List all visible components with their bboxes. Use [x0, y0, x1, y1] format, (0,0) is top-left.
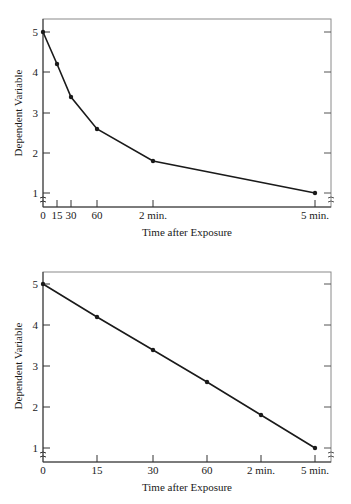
x-tick-label: 5 min.	[301, 464, 329, 476]
y-tick-label: 5	[33, 26, 39, 38]
chart-ordinal-time-svg: 5 4 3 2 1 0 15 30 60 2 min. 5 min. Time …	[0, 252, 351, 504]
x-tick-label: 0	[40, 209, 46, 221]
chart-ordinal-time: 5 4 3 2 1 0 15 30 60 2 min. 5 min. Time …	[0, 252, 351, 504]
x-tick-label: 15	[52, 209, 64, 221]
x-tick-label: 60	[92, 209, 104, 221]
data-points	[41, 30, 317, 195]
y-axis-title: Dependent Variable	[12, 69, 24, 156]
x-tick-label: 2 min.	[139, 209, 167, 221]
plot-frame	[43, 272, 331, 462]
plot-frame	[43, 19, 331, 207]
x-ticks	[57, 200, 315, 207]
x-axis-title: Time after Exposure	[142, 226, 232, 238]
data-line	[43, 284, 315, 448]
y-ticks-left	[43, 284, 50, 448]
x-tick-label: 2 min.	[247, 464, 275, 476]
x-tick-label: 0	[40, 464, 46, 476]
y-tick-label: 2	[33, 401, 39, 413]
y-tick-label: 4	[33, 319, 39, 331]
x-tick-label: 60	[202, 464, 214, 476]
x-tick-label: 30	[66, 209, 78, 221]
y-tick-label: 1	[33, 442, 39, 454]
x-ticks	[97, 455, 315, 462]
y-tick-label: 4	[33, 66, 39, 78]
y-ticks-left	[43, 32, 50, 193]
data-line	[43, 32, 315, 193]
y-tick-label: 2	[33, 147, 39, 159]
y-tick-label: 5	[33, 278, 39, 290]
x-tick-label: 15	[92, 464, 104, 476]
x-tick-label: 5 min.	[301, 209, 329, 221]
y-tick-label: 3	[33, 107, 39, 119]
x-axis-title: Time after Exposure	[142, 481, 232, 493]
y-ticks-right	[324, 32, 331, 193]
y-tick-label: 3	[33, 360, 39, 372]
y-axis-title: Dependent Variable	[12, 322, 24, 409]
y-ticks-right	[324, 284, 331, 448]
y-tick-label: 1	[33, 187, 39, 199]
chart-linear-time-svg: 5 4 3 2 1 0 15 30 60 2 min. 5 min. Time …	[0, 0, 351, 250]
chart-linear-time: 5 4 3 2 1 0 15 30 60 2 min. 5 min. Time …	[0, 0, 351, 250]
x-tick-label: 30	[148, 464, 160, 476]
